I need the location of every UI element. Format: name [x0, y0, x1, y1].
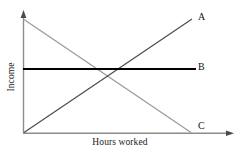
y-axis-arrow-icon	[21, 10, 27, 18]
series-label-c: C	[198, 120, 205, 131]
x-axis-arrow-icon	[226, 130, 234, 136]
x-axis-title: Hours worked	[0, 137, 240, 147]
series-label-b: B	[198, 61, 205, 72]
income-hours-chart: Income Hours worked A B C	[0, 0, 240, 153]
y-axis-title: Income	[6, 47, 16, 107]
series-label-a: A	[198, 11, 205, 22]
